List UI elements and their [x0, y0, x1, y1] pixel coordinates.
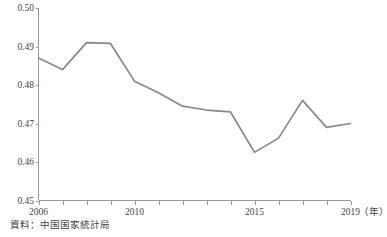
y-tick-label: 0.48 — [4, 80, 34, 90]
x-tick-marks — [40, 201, 352, 205]
y-tick-label-wrap: 0.47 — [0, 119, 34, 129]
x-tick-label: 2006 — [29, 207, 48, 218]
x-axis-unit-label: （年） — [359, 207, 387, 218]
y-tick-label: 0.50 — [4, 3, 34, 13]
y-tick-label: 0.49 — [4, 42, 34, 52]
y-tick-label-wrap: 0.46 — [0, 157, 34, 167]
y-tick-label-wrap: 0.50 — [0, 3, 34, 13]
y-tick-label-wrap: 0.48 — [0, 80, 34, 90]
y-tick-label-wrap: 0.49 — [0, 42, 34, 52]
x-tick-label: 2019 — [341, 207, 360, 218]
y-tick-label-wrap: 0.45 — [0, 196, 34, 206]
x-tick-label: 2015 — [245, 207, 264, 218]
y-tick-label: 0.45 — [4, 196, 34, 206]
y-tick-label: 0.47 — [4, 119, 34, 129]
source-note: 資料：中国国家統計局 — [10, 219, 110, 231]
x-tick-label: 2010 — [125, 207, 144, 218]
data-series-line — [39, 43, 351, 153]
y-tick-label: 0.46 — [4, 157, 34, 167]
